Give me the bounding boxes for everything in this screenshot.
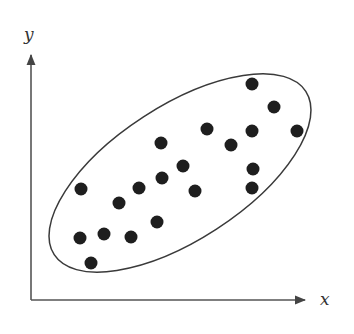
data-point xyxy=(177,160,190,173)
data-point xyxy=(246,182,259,195)
data-point xyxy=(75,183,88,196)
data-point xyxy=(113,197,126,210)
data-points xyxy=(74,78,304,270)
data-point xyxy=(125,231,138,244)
data-point xyxy=(201,123,214,136)
data-point xyxy=(155,137,168,150)
data-point xyxy=(133,182,146,195)
enclosing-ellipse xyxy=(18,35,343,311)
data-point xyxy=(247,163,260,176)
data-point xyxy=(225,139,238,152)
cluster-ellipse xyxy=(18,35,343,311)
scatter-diagram: y x xyxy=(0,0,354,334)
data-point xyxy=(246,78,259,91)
y-axis-label: y xyxy=(23,24,34,44)
data-point xyxy=(85,257,98,270)
data-point xyxy=(74,232,87,245)
x-axis-label: x xyxy=(320,289,330,309)
data-point xyxy=(189,185,202,198)
data-point xyxy=(246,125,259,138)
data-point xyxy=(291,125,304,138)
data-point xyxy=(98,228,111,241)
data-point xyxy=(156,172,169,185)
data-point xyxy=(151,216,164,229)
data-point xyxy=(268,101,281,114)
